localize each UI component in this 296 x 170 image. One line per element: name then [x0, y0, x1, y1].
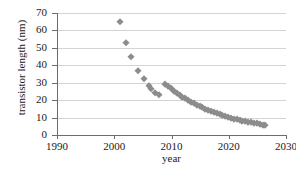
- y-tick-label: 40: [7, 59, 47, 70]
- transistor-length-chart: 010203040506070 19902000201020202030 yea…: [0, 0, 296, 170]
- y-tick-mark: [52, 65, 57, 66]
- y-tick-label: 20: [7, 94, 47, 105]
- x-axis-title: year: [57, 153, 286, 164]
- gridline: [57, 100, 286, 101]
- data-point-marker: [116, 18, 124, 26]
- x-tick-label: 2020: [206, 141, 252, 152]
- x-tick-mark: [286, 135, 287, 139]
- y-tick-mark: [52, 100, 57, 101]
- x-tick-mark: [229, 135, 230, 139]
- y-tick-label: 60: [7, 24, 47, 35]
- x-tick-label: 2000: [91, 141, 137, 152]
- plot-area: [57, 13, 286, 135]
- x-tick-label: 2010: [149, 141, 195, 152]
- y-tick-label: 30: [7, 77, 47, 88]
- y-axis-line: [57, 13, 58, 135]
- data-point-marker: [134, 67, 142, 75]
- x-tick-mark: [57, 135, 58, 139]
- gridline: [57, 65, 286, 66]
- y-axis-title: transistor length (nm): [16, 8, 27, 128]
- gridline: [57, 48, 286, 49]
- x-tick-label: 1990: [34, 141, 80, 152]
- gridline: [57, 83, 286, 84]
- data-point-marker: [122, 39, 130, 47]
- y-tick-label: 50: [7, 42, 47, 53]
- y-tick-label: 10: [7, 112, 47, 123]
- x-tick-mark: [114, 135, 115, 139]
- gridline: [57, 30, 286, 31]
- y-tick-mark: [52, 48, 57, 49]
- y-tick-mark: [52, 118, 57, 119]
- data-point-marker: [155, 91, 163, 99]
- y-tick-mark: [52, 83, 57, 84]
- data-point-marker: [128, 53, 136, 61]
- y-tick-label: 0: [7, 129, 47, 140]
- y-tick-label: 70: [7, 7, 47, 18]
- gridline: [57, 13, 286, 14]
- x-tick-mark: [172, 135, 173, 139]
- y-tick-mark: [52, 30, 57, 31]
- x-tick-label: 2030: [263, 141, 296, 152]
- y-tick-mark: [52, 13, 57, 14]
